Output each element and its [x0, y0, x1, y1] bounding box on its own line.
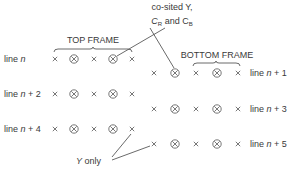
cross-inner [110, 126, 115, 131]
cross-inner [172, 70, 177, 75]
cosited-sample-icon [109, 55, 117, 63]
line-label-n-plus-2: line n + 2 [4, 89, 41, 99]
cross-inner [110, 56, 115, 61]
cross-inner [71, 56, 76, 61]
line-label-n-plus-3: line n + 3 [250, 104, 287, 114]
cosited-sample-icon [109, 125, 117, 133]
cosited-sample-icon [109, 90, 117, 98]
y-only-sample-icon [53, 57, 57, 61]
cosited-label-line2: CR and CB [151, 16, 192, 27]
line-label-n: line n [4, 54, 26, 64]
y-only-sample-icon [130, 57, 134, 61]
y-only-sample-icon [152, 71, 156, 75]
cross-inner [214, 141, 219, 146]
cosited-pointer-top [117, 28, 165, 56]
sample-grid [53, 55, 240, 148]
y-only-sample-icon [53, 92, 57, 96]
y-only-sample-icon [236, 71, 240, 75]
y-only-sample-icon [194, 107, 198, 111]
cross-inner [71, 126, 76, 131]
cosited-sample-icon [171, 69, 179, 77]
cosited-sample-icon [70, 55, 78, 63]
cosited-label-line1: co-sited Y, [151, 2, 192, 12]
cosited-sample-icon [70, 90, 78, 98]
cosited-sample-icon [213, 105, 221, 113]
cross-inner [172, 141, 177, 146]
cross-inner [172, 106, 177, 111]
cross-inner [71, 91, 76, 96]
cosited-sample-icon [171, 105, 179, 113]
y-only-sample-icon [130, 92, 134, 96]
bottom-frame-brace [193, 61, 240, 66]
cross-inner [214, 106, 219, 111]
line-label-n-plus-1: line n + 1 [250, 68, 287, 78]
y-only-sample-icon [53, 127, 57, 131]
cosited-sample-icon [213, 140, 221, 148]
bottom-frame-label: BOTTOM FRAME [181, 50, 253, 60]
cross-inner [110, 91, 115, 96]
y-only-sample-icon [194, 142, 198, 146]
y-only-label: Y only [76, 156, 102, 166]
y-only-sample-icon [236, 107, 240, 111]
y-only-sample-icon [92, 127, 96, 131]
cosited-sample-icon [70, 125, 78, 133]
y-only-pointer-bottom [112, 146, 150, 160]
field-sampling-diagram: co-sited Y, CR and CB TOP FRAME BOTTOM F… [0, 0, 290, 174]
line-label-n-plus-5: line n + 5 [250, 139, 287, 149]
cosited-sample-icon [213, 69, 221, 77]
cosited-sample-icon [171, 140, 179, 148]
y-only-sample-icon [130, 127, 134, 131]
y-only-sample-icon [92, 92, 96, 96]
top-frame-label: TOP FRAME [67, 35, 119, 45]
y-only-pointer-top [112, 134, 131, 157]
line-label-n-plus-4: line n + 4 [4, 124, 41, 134]
cosited-pointer-bottom [150, 28, 174, 68]
cross-inner [214, 70, 219, 75]
y-only-sample-icon [152, 107, 156, 111]
top-frame-brace [54, 47, 132, 52]
y-only-sample-icon [194, 71, 198, 75]
y-only-sample-icon [152, 142, 156, 146]
y-only-sample-icon [236, 142, 240, 146]
y-only-sample-icon [92, 57, 96, 61]
